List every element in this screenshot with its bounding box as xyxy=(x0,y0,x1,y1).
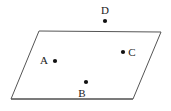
point-b-dot xyxy=(84,80,88,84)
point-c-label: C xyxy=(128,47,135,58)
point-a-dot xyxy=(53,59,57,63)
parallelogram-left-edge xyxy=(11,31,39,99)
point-d-label: D xyxy=(101,5,109,16)
parallelogram-outline xyxy=(11,31,161,99)
point-d-dot xyxy=(103,19,107,23)
point-b-label: B xyxy=(78,88,85,99)
point-a-label: A xyxy=(40,55,48,66)
point-c-dot xyxy=(121,50,125,54)
geometry-figure: A B C D xyxy=(0,0,171,111)
